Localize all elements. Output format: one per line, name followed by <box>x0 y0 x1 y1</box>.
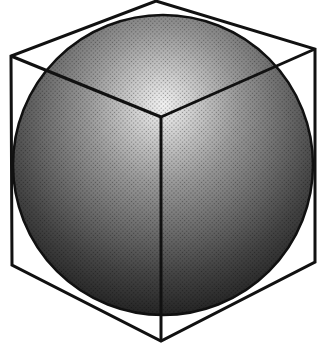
sphere-in-cube-diagram <box>0 0 329 353</box>
figure-canvas: Sphere inscribed in a cube, isometric vi… <box>0 0 329 353</box>
sphere-halftone <box>13 15 313 315</box>
